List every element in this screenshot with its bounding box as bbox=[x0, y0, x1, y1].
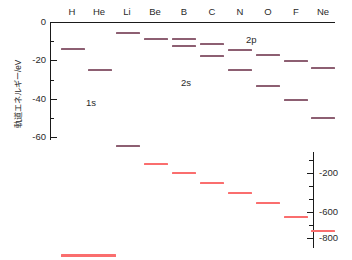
element-label-H: H bbox=[61, 7, 83, 17]
level-2s-Ne bbox=[311, 117, 335, 119]
right-axis-ticklabel-minus600: -600 bbox=[319, 207, 351, 216]
left-axis-ticklabel-minus20: -20 bbox=[16, 55, 46, 64]
level-2s-N bbox=[228, 69, 252, 71]
level-1s-Ne bbox=[311, 230, 335, 232]
level-2p-N bbox=[228, 49, 252, 51]
level-1s-He bbox=[88, 69, 112, 71]
left-axis-tick-minus60 bbox=[50, 137, 57, 138]
annotation-2s: 2s bbox=[181, 78, 191, 88]
right-axis-minor-tick-minus300 bbox=[309, 186, 313, 187]
right-axis-line bbox=[313, 152, 314, 248]
left-axis-minor-tick-minus10 bbox=[50, 41, 54, 42]
level-2p-F bbox=[284, 60, 308, 62]
level-2s-B bbox=[172, 45, 196, 47]
element-label-C: C bbox=[201, 7, 223, 17]
level-1s-H bbox=[61, 48, 85, 50]
left-axis-ticklabel-minus60: -60 bbox=[16, 132, 46, 141]
level-1s-O bbox=[256, 202, 280, 204]
left-axis-tick-minus40 bbox=[50, 99, 57, 100]
element-label-Ne: Ne bbox=[312, 7, 334, 17]
level-1s-N bbox=[228, 192, 252, 194]
annotation-1s: 1s bbox=[86, 98, 96, 108]
level-cropped-bottom bbox=[61, 254, 116, 257]
right-axis-minor-tick-minus100 bbox=[309, 160, 313, 161]
level-1s-B bbox=[172, 172, 196, 174]
orbital-energy-level-chart: 軌道エネルギー/eV 0 -20 -40 -60 H He Li Be B C … bbox=[0, 0, 352, 260]
level-2s-O bbox=[256, 85, 280, 87]
element-label-Be: Be bbox=[144, 7, 166, 17]
level-2p-C bbox=[200, 43, 224, 45]
element-label-N: N bbox=[229, 7, 251, 17]
level-1s-Li bbox=[116, 145, 140, 147]
level-2p-O bbox=[256, 54, 280, 56]
right-axis-ticklabel-minus800: -800 bbox=[319, 233, 351, 242]
right-axis-ticklabel-minus200: -200 bbox=[319, 168, 351, 177]
element-label-O: O bbox=[257, 7, 279, 17]
element-label-Li: Li bbox=[116, 7, 138, 17]
right-axis-minor-tick-minus400 bbox=[309, 199, 313, 200]
level-1s-C bbox=[200, 182, 224, 184]
zero-baseline bbox=[50, 22, 335, 23]
level-2p-Ne bbox=[311, 67, 335, 69]
left-axis-tick-minus20 bbox=[50, 60, 57, 61]
level-2s-Be bbox=[144, 38, 168, 40]
left-axis-minor-tick-minus30 bbox=[50, 80, 54, 81]
right-axis-tick-minus800 bbox=[307, 238, 314, 239]
right-axis-tick-minus600 bbox=[307, 212, 314, 213]
left-axis-ticklabel-minus40: -40 bbox=[16, 94, 46, 103]
level-2p-B bbox=[172, 38, 196, 40]
element-label-He: He bbox=[88, 7, 110, 17]
element-label-B: B bbox=[173, 7, 195, 17]
element-label-F: F bbox=[285, 7, 307, 17]
left-axis-ticklabel-0: 0 bbox=[22, 17, 46, 26]
right-axis-minor-tick-minus700 bbox=[309, 225, 313, 226]
level-1s-F bbox=[284, 216, 308, 218]
level-2s-F bbox=[284, 99, 308, 101]
level-1s-Be bbox=[144, 163, 168, 165]
level-2s-C bbox=[200, 55, 224, 57]
left-axis-minor-tick-minus50 bbox=[50, 118, 54, 119]
right-axis-tick-minus200 bbox=[307, 173, 314, 174]
annotation-2p: 2p bbox=[246, 35, 257, 45]
level-2s-Li bbox=[116, 32, 140, 34]
